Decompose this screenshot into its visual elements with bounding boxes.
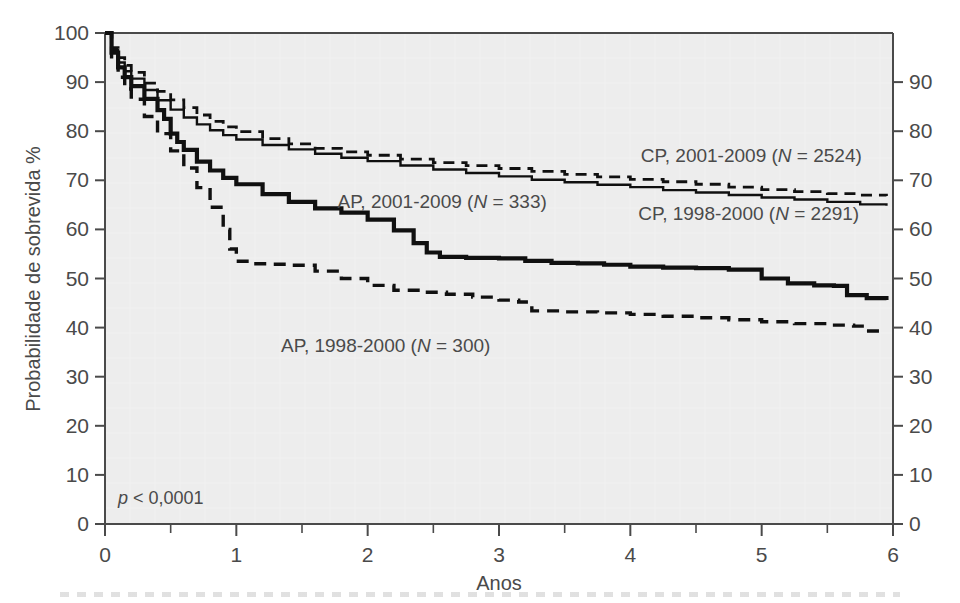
y-right-tick-label-60: 60	[909, 217, 932, 240]
y-tick-label-50: 50	[66, 267, 89, 290]
x-tick-label-4: 4	[624, 543, 636, 566]
x-tick-label-0: 0	[99, 543, 111, 566]
figure-caption-strip	[60, 592, 900, 597]
y-right-tick-label-80: 80	[909, 119, 932, 142]
survival-curve-figure: 0102030405060708090100 01020304050607080…	[0, 0, 960, 603]
y-right-tick-label-10: 10	[909, 463, 932, 486]
x-axis-title: Anos	[476, 572, 522, 594]
series-label-cp-1998-2000: CP, 1998-2000 (N = 2291)	[638, 203, 859, 224]
series-label-ap-2001-2009: AP, 2001-2009 (N = 333)	[337, 191, 546, 212]
y-tick-label-100: 100	[54, 21, 89, 44]
kaplan-meier-chart: 0102030405060708090100 01020304050607080…	[0, 0, 960, 603]
y-right-tick-label-70: 70	[909, 168, 932, 191]
y-tick-label-60: 60	[66, 217, 89, 240]
y-tick-label-30: 30	[66, 365, 89, 388]
y-tick-label-40: 40	[66, 316, 89, 339]
y-tick-label-90: 90	[66, 70, 89, 93]
y-right-tick-label-30: 30	[909, 365, 932, 388]
y-axis-title: Probabilidade de sobrevida %	[22, 146, 44, 412]
x-tick-label-5: 5	[756, 543, 768, 566]
x-tick-label-1: 1	[230, 543, 242, 566]
p-value-annotation: p < 0,0001	[117, 488, 204, 508]
series-label-cp-2001-2009: CP, 2001-2009 (N = 2524)	[641, 145, 862, 166]
y-tick-label-80: 80	[66, 119, 89, 142]
x-tick-label-6: 6	[887, 543, 899, 566]
series-label-ap-1998-2000: AP, 1998-2000 (N = 300)	[281, 335, 490, 356]
x-tick-label-2: 2	[362, 543, 374, 566]
y-right-tick-label-20: 20	[909, 414, 932, 437]
p-value-symbol: p	[117, 488, 128, 508]
y-right-tick-label-40: 40	[909, 316, 932, 339]
y-tick-label-20: 20	[66, 414, 89, 437]
y-right-tick-label-0: 0	[909, 512, 921, 535]
p-value-text: < 0,0001	[128, 488, 204, 508]
y-tick-label-0: 0	[77, 512, 89, 535]
y-tick-label-70: 70	[66, 168, 89, 191]
y-tick-label-10: 10	[66, 463, 89, 486]
y-right-tick-label-90: 90	[909, 70, 932, 93]
x-tick-label-3: 3	[493, 543, 505, 566]
y-right-tick-label-50: 50	[909, 267, 932, 290]
